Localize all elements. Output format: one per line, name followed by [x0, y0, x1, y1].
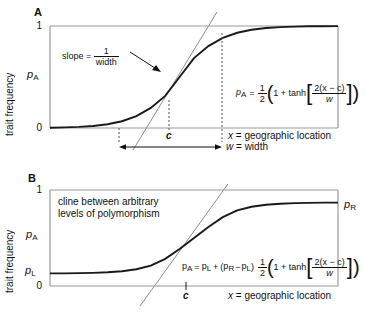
- panel-a-x-axis-label: x = geographic location: [228, 130, 331, 141]
- panel-a-tangent-line: [133, 12, 217, 150]
- panel-a-center-label: c: [166, 130, 172, 141]
- panel-b-equation: pA = pL + ( pR − pL ) 1 2 ( 1 + tanh [ 2…: [182, 256, 360, 278]
- panel-b-eq-tanh-fraction: 2(x − c) w: [312, 257, 346, 278]
- panel-a-eq-tanh-fraction: 2(x − c) w: [312, 83, 346, 104]
- panel-a-equation: pA = 1 2 ( 1 + tanh [ 2(x − c) w ] ): [236, 82, 359, 104]
- panel-a-eq-half: 1 2: [258, 83, 267, 104]
- panel-b-x-axis-label: x = geographic location: [228, 290, 331, 301]
- panel-a-width-label: w = width: [226, 141, 268, 152]
- panel-a-width-arrow-head-left: [119, 144, 126, 149]
- panel-a: A trait frequency 1 0 pA slope = 1 width: [0, 0, 366, 160]
- panel-b-caption: cline between arbitrary levels of polymo…: [58, 196, 160, 220]
- panel-a-sigmoid-curve: [50, 26, 338, 128]
- panel-b-caption-line2: levels of polymorphism: [58, 208, 160, 220]
- panel-a-slope-fraction: 1 width: [94, 46, 119, 67]
- panel-b-center-label: c: [183, 290, 189, 301]
- panel-b-eq-half: 1 2: [258, 257, 267, 278]
- panel-b: B trait frequency 1 0 pA pL pR cline bet…: [0, 160, 366, 315]
- panel-a-width-arrow-head-right: [215, 144, 222, 149]
- panel-a-slope-arrow: [130, 52, 158, 70]
- panel-a-slope-annotation: slope = 1 width: [62, 46, 119, 67]
- panel-b-caption-line1: cline between arbitrary: [58, 196, 160, 208]
- panel-a-slope-arrow-head: [152, 65, 161, 72]
